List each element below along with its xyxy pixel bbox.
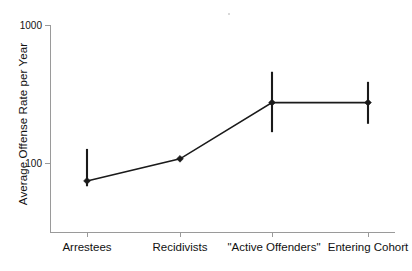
- series-line: [87, 103, 368, 181]
- data-point-marker: [365, 99, 372, 106]
- y-tick-label: 1000: [20, 20, 42, 31]
- chart-figure: Average Offense Rate per Year 1000 100 1…: [0, 0, 412, 271]
- scan-speck: [404, 243, 406, 245]
- series-plot: [50, 25, 395, 233]
- x-tick-label-recidivists: Recidivists: [153, 241, 208, 253]
- x-tick-label-active-offenders: "Active Offenders": [228, 241, 321, 253]
- y-axis-title: Average Offense Rate per Year: [17, 9, 29, 239]
- plot-area: 1000 100 10 1 Arrestees Recidivists "Act…: [50, 25, 395, 232]
- x-tick-label-entering-cohort: Entering Cohort: [328, 241, 409, 253]
- scan-speck: [228, 13, 230, 15]
- x-tick-label-arrestees: Arrestees: [62, 241, 111, 253]
- data-point-marker: [84, 178, 91, 185]
- y-tick-label: 100: [25, 158, 42, 169]
